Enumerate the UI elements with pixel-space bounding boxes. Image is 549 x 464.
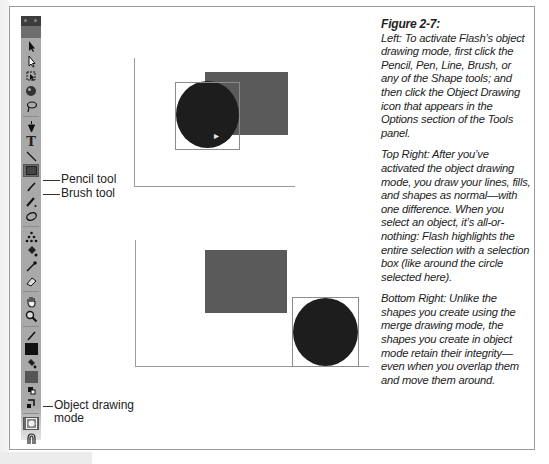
- ink-bottle-icon: [25, 210, 38, 223]
- free-transform-tool[interactable]: [23, 70, 39, 83]
- hand-tool[interactable]: [23, 295, 39, 308]
- object-drawing-button[interactable]: [23, 417, 39, 430]
- tools-separator: [23, 291, 39, 292]
- figure-caption: Figure 2-7: Left: To activate Flash’s ob…: [381, 18, 531, 395]
- tools-panel-header: [21, 26, 41, 38]
- lasso-tool[interactable]: [23, 100, 39, 113]
- hand-icon: [25, 295, 38, 308]
- swap-colors-button[interactable]: [23, 397, 39, 410]
- brush-tool-callout: Brush tool: [61, 187, 115, 200]
- eyedropper-tool[interactable]: [23, 260, 39, 273]
- selection-box: [175, 82, 240, 150]
- deco-tool[interactable]: [23, 230, 39, 243]
- tools-separator: [23, 116, 39, 117]
- tools-separator: [23, 326, 39, 327]
- caption-paragraph-top-right: Top Right: After you’ve activated the ob…: [381, 148, 531, 284]
- stroke-color-tool[interactable]: [23, 329, 39, 342]
- paint-bucket-icon: [25, 245, 38, 258]
- fill-color-tool[interactable]: [23, 357, 39, 370]
- fill-bucket-icon: [25, 357, 38, 370]
- swap-colors-icon: [25, 397, 38, 410]
- pencil-icon: [25, 180, 38, 193]
- stage-edge-horizontal: [134, 186, 295, 187]
- move-cursor-icon: ▸: [214, 130, 219, 141]
- sphere-icon: [25, 85, 38, 98]
- stroke-color-swatch[interactable]: [25, 343, 38, 355]
- brush-callout-line: [43, 194, 60, 195]
- close-icon[interactable]: [34, 19, 37, 22]
- tools-separator: [23, 413, 39, 414]
- rectangle-icon: [25, 164, 38, 177]
- rectangle-tool[interactable]: [23, 164, 39, 177]
- object-drawing-callout-line2: mode: [54, 412, 134, 425]
- ink-bottle-tool[interactable]: [23, 210, 39, 223]
- brush-tool[interactable]: [23, 195, 39, 208]
- brush-icon: [25, 195, 38, 208]
- deco-icon: [25, 230, 38, 243]
- free-transform-icon: [25, 70, 38, 83]
- eyedropper-icon: [25, 260, 38, 273]
- rectangle-shape[interactable]: [205, 250, 287, 313]
- text-tool[interactable]: T: [23, 135, 39, 148]
- magnifier-icon: [25, 310, 38, 323]
- tools-separator: [23, 226, 39, 227]
- tools-panel-titlebar[interactable]: [21, 16, 41, 26]
- stage-edge-vertical: [135, 240, 136, 366]
- figure-title: Figure 2-7:: [381, 18, 531, 32]
- object-drawing-callout: Object drawing mode: [54, 399, 134, 425]
- snap-to-objects-button[interactable]: [23, 432, 39, 445]
- fill-color-swatch[interactable]: [25, 371, 38, 383]
- page-edge-shade: [0, 452, 92, 464]
- line-icon: [25, 150, 38, 163]
- eraser-tool[interactable]: [23, 275, 39, 288]
- pencil-tool[interactable]: [23, 180, 39, 193]
- paint-bucket-tool[interactable]: [23, 245, 39, 258]
- subselection-tool[interactable]: [23, 55, 39, 68]
- collapse-icon[interactable]: [24, 19, 27, 22]
- text-t-icon: T: [26, 135, 36, 148]
- pen-tool[interactable]: [23, 120, 39, 133]
- object-drawing-icon: [25, 417, 38, 430]
- 3d-rotation-tool[interactable]: [23, 85, 39, 98]
- line-tool[interactable]: [23, 150, 39, 163]
- zoom-tool[interactable]: [23, 310, 39, 323]
- caption-paragraph-left: Left: To activate Flash’s object drawing…: [381, 32, 531, 141]
- stage-edge-vertical: [134, 58, 135, 186]
- pen-nib-icon: [25, 120, 38, 133]
- arrow-icon: [25, 40, 38, 53]
- lasso-icon: [25, 100, 38, 113]
- magnet-icon: [25, 432, 38, 445]
- pencil-callout-line: [43, 180, 60, 181]
- tools-panel: T: [21, 16, 41, 440]
- selection-tool[interactable]: [23, 40, 39, 53]
- pencil-tool-callout: Pencil tool: [61, 173, 116, 186]
- selection-box: [292, 297, 359, 367]
- stroke-pencil-icon: [25, 329, 38, 342]
- object-drawing-callout-line: [43, 406, 53, 407]
- subselection-arrow-icon: [25, 55, 38, 68]
- eraser-icon: [25, 275, 38, 288]
- caption-paragraph-bottom-right: Bottom Right: Unlike the shapes you crea…: [381, 292, 531, 387]
